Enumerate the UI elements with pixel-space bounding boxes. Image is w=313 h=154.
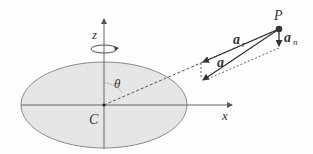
rotation-arrow-icon <box>91 45 119 53</box>
svg-text:n: n <box>293 37 298 47</box>
z-axis-label: z <box>91 27 97 42</box>
x-axis-label: x <box>221 108 228 123</box>
theta-label: θ <box>114 76 121 91</box>
svg-text:r: r <box>242 39 246 49</box>
vector-a <box>203 29 279 80</box>
svg-text:a: a <box>284 30 291 45</box>
point-p <box>276 26 283 33</box>
vector-a-label: a <box>217 55 224 70</box>
vector-ar <box>203 29 279 62</box>
svg-text:a: a <box>233 32 240 47</box>
vector-ar-label: a r <box>233 32 246 49</box>
point-p-label: P <box>273 8 283 23</box>
svg-text:a: a <box>217 55 224 70</box>
center-label: C <box>89 112 99 127</box>
diagram-canvas: z x C θ P a r a a n <box>0 0 313 154</box>
vector-an-label: a n <box>284 30 298 47</box>
diagram-svg: z x C θ P a r a a n <box>0 0 313 154</box>
center-point <box>102 103 105 106</box>
